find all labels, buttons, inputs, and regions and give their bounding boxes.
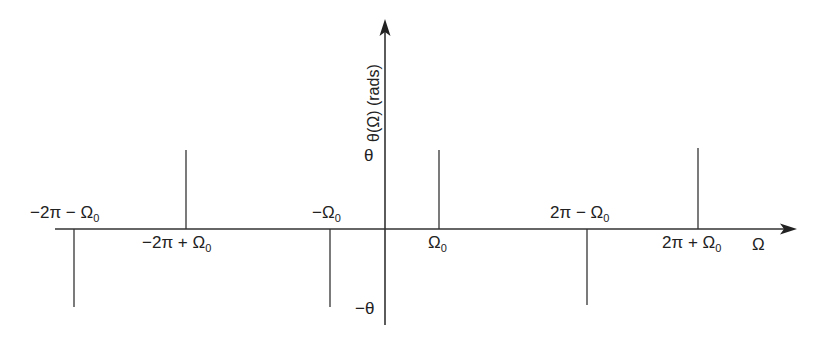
label-text: −2π − Ω — [30, 203, 93, 222]
label-neg-2pi-plus-omega0: −2π + Ω0 — [142, 234, 211, 254]
label-subscript: 0 — [603, 212, 609, 224]
label-subscript: 0 — [715, 242, 721, 254]
label-text: Ω — [428, 233, 441, 252]
label-neg-2pi-minus-omega0: −2π − Ω0 — [30, 204, 99, 224]
diagram-graphics — [0, 0, 822, 344]
label-neg-omega0: −Ω0 — [312, 204, 341, 224]
label-text: −2π + Ω — [142, 233, 205, 252]
label-text: 2π + Ω — [662, 233, 715, 252]
label-text: 2π − Ω — [550, 203, 603, 222]
label-subscript: 0 — [335, 212, 341, 224]
label-text: −Ω — [312, 203, 335, 222]
label-2pi-minus-omega0: 2π − Ω0 — [550, 204, 609, 224]
y-tick-theta: θ — [364, 147, 373, 164]
label-omega0: Ω0 — [428, 234, 447, 254]
y-axis-label: θ(Ω) (rads) — [366, 64, 382, 142]
label-subscript: 0 — [205, 242, 211, 254]
x-axis-label: Ω — [752, 236, 765, 253]
phase-spectrum-diagram: θ(Ω) (rads) θ −θ Ω −2π − Ω0 −2π + Ω0 −Ω0… — [0, 0, 822, 344]
label-2pi-plus-omega0: 2π + Ω0 — [662, 234, 721, 254]
label-subscript: 0 — [93, 212, 99, 224]
label-subscript: 0 — [441, 242, 447, 254]
y-tick-neg-theta: −θ — [355, 300, 374, 317]
